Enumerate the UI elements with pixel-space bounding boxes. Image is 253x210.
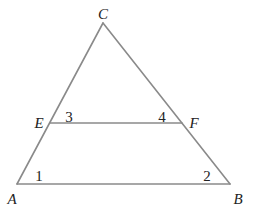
point-label-b: B <box>233 191 242 207</box>
point-label-a: A <box>6 191 17 207</box>
point-label-e: E <box>33 115 43 131</box>
point-label-c: C <box>98 6 109 22</box>
labels: CEFAB1234 <box>6 6 242 207</box>
segments <box>17 23 230 184</box>
segment-ca <box>17 23 103 184</box>
geometry-diagram: CEFAB1234 <box>0 0 253 210</box>
point-label-f: F <box>188 115 199 131</box>
angle-1-label: 1 <box>35 168 43 184</box>
angle-3-label: 3 <box>65 109 73 125</box>
segment-bc <box>103 23 230 184</box>
angle-4-label: 4 <box>158 109 166 125</box>
angle-2-label: 2 <box>203 168 211 184</box>
triangle-diagram: CEFAB1234 <box>0 0 253 210</box>
